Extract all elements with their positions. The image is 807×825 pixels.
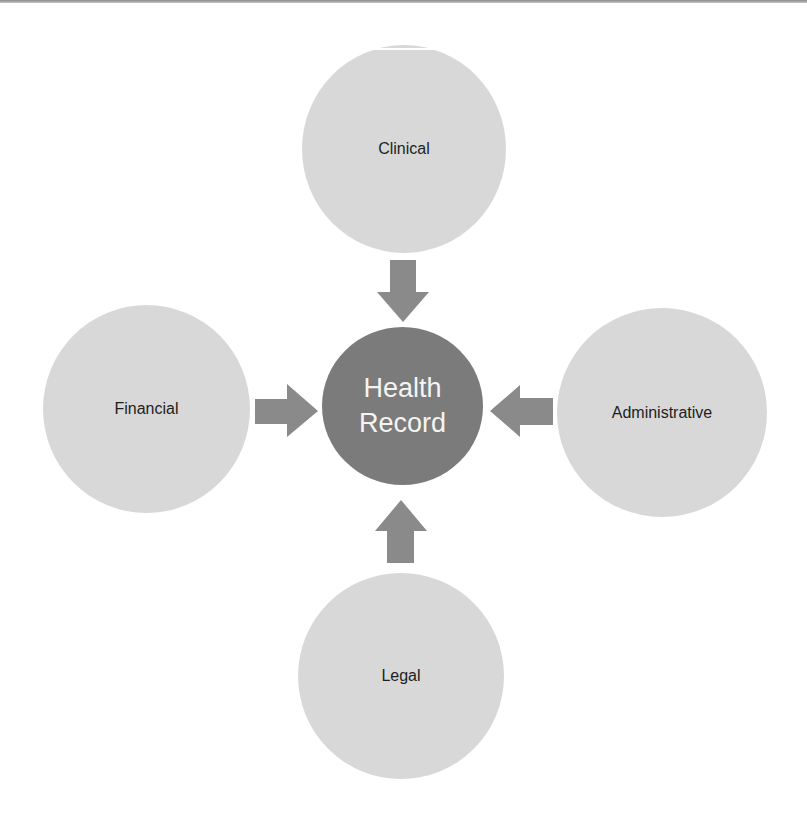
arrow-right-icon [255,384,318,437]
arrow-down-icon [377,260,429,322]
arrow-left-icon [490,385,553,437]
arrows-layer [0,0,807,825]
arrow-up-icon [375,500,427,563]
